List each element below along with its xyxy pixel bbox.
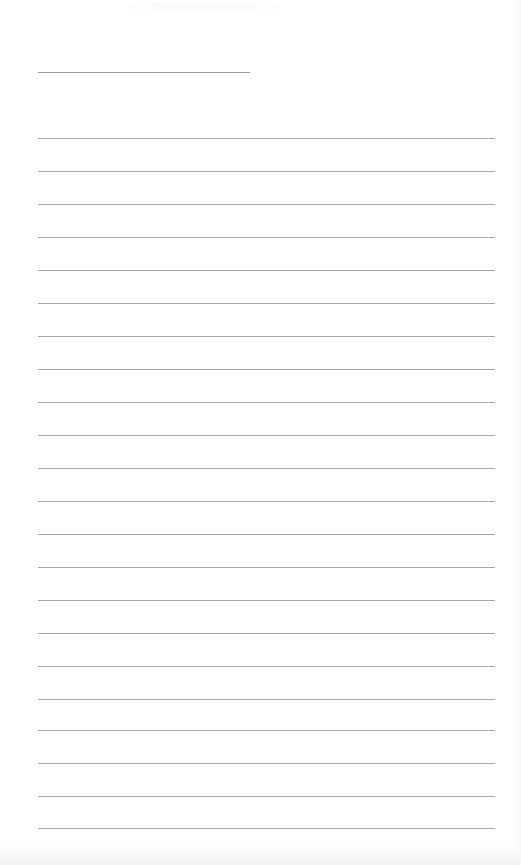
ruled-line — [38, 534, 495, 535]
ruled-line — [38, 204, 495, 205]
ruled-line — [38, 633, 495, 634]
ruled-line — [38, 763, 495, 764]
ruled-line — [38, 600, 495, 601]
ruled-line — [38, 828, 495, 829]
ruled-line — [38, 402, 495, 403]
ruled-line — [38, 699, 495, 700]
ruled-line — [38, 435, 495, 436]
ruled-line — [38, 369, 495, 370]
ruled-line — [38, 567, 495, 568]
ruled-line — [38, 666, 495, 667]
ruled-line — [38, 237, 495, 238]
ruled-line — [38, 303, 495, 304]
ruled-line — [38, 138, 495, 139]
ruled-line — [38, 501, 495, 502]
ruled-line — [38, 171, 495, 172]
ruled-line — [38, 796, 495, 797]
show-through-marks — [120, 2, 290, 10]
header-field-line — [38, 72, 250, 73]
bottom-edge-shading — [0, 845, 521, 865]
ruled-line — [38, 270, 495, 271]
notepad-page — [0, 0, 521, 865]
ruled-line — [38, 468, 495, 469]
ruled-line — [38, 336, 495, 337]
ruled-line — [38, 730, 495, 731]
right-edge-shading — [513, 0, 521, 865]
